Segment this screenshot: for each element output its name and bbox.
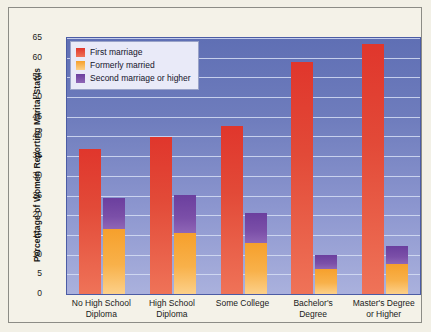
bar-marital-stack xyxy=(386,246,408,294)
bar-first-marriage xyxy=(291,62,313,294)
y-axis-tick-label: 60 xyxy=(18,53,42,62)
bar-segment-formerly-married xyxy=(103,229,125,294)
chart-figure: Percentage of Women Reporting Marital St… xyxy=(0,0,431,332)
bar-segment-second-marriage xyxy=(245,213,267,243)
bar-segment-formerly-married xyxy=(386,264,408,294)
bar-first-marriage xyxy=(79,149,101,294)
red-swatch xyxy=(76,48,85,57)
y-axis-tick-label: 45 xyxy=(18,112,42,121)
bar-segment-first-marriage xyxy=(150,137,172,294)
y-axis-tick-label: 30 xyxy=(18,171,42,180)
y-axis-tick-label: 20 xyxy=(18,210,42,219)
x-axis-tick-label: Master's Degree or Higher xyxy=(342,298,425,319)
y-axis-tick-label: 15 xyxy=(18,230,42,239)
bar-segment-first-marriage xyxy=(291,62,313,294)
bar-segment-formerly-married xyxy=(245,243,267,294)
y-axis-tick-label: 65 xyxy=(18,33,42,42)
legend-item: First marriage xyxy=(76,46,191,59)
y-axis-tick-label: 5 xyxy=(18,269,42,278)
bar-segment-formerly-married xyxy=(174,233,196,294)
figure-frame: Percentage of Women Reporting Marital St… xyxy=(8,7,422,323)
y-axis-tick-label: 0 xyxy=(18,289,42,298)
bar-marital-stack xyxy=(103,198,125,294)
y-axis-tick-label: 55 xyxy=(18,72,42,81)
bar-segment-second-marriage xyxy=(386,246,408,265)
y-axis-tick-label: 35 xyxy=(18,151,42,160)
bar-segment-first-marriage xyxy=(221,126,243,294)
legend-item-label: Formerly married xyxy=(90,61,155,70)
gridline xyxy=(67,38,420,39)
orange-swatch xyxy=(76,61,85,70)
bar-marital-stack xyxy=(245,213,267,294)
bar-segment-formerly-married xyxy=(315,269,337,294)
y-axis-tick-label: 25 xyxy=(18,191,42,200)
y-axis-title: Percentage of Women Reporting Marital St… xyxy=(32,50,42,280)
chart-legend: First marriage Formerly married Second m… xyxy=(70,41,199,90)
purple-swatch xyxy=(76,74,85,83)
legend-item-label: Second marriage or higher xyxy=(90,74,191,83)
bar-segment-second-marriage xyxy=(315,255,337,269)
bar-first-marriage xyxy=(150,137,172,294)
bar-first-marriage xyxy=(362,44,384,294)
bar-segment-first-marriage xyxy=(362,44,384,294)
plot-area: First marriage Formerly married Second m… xyxy=(66,37,421,295)
bar-segment-second-marriage xyxy=(174,195,196,232)
bar-segment-first-marriage xyxy=(79,149,101,294)
y-axis-tick-label: 50 xyxy=(18,92,42,101)
legend-item: Second marriage or higher xyxy=(76,72,191,85)
y-axis-tick-label: 40 xyxy=(18,131,42,140)
y-axis-tick-label: 10 xyxy=(18,250,42,259)
legend-item-label: First marriage xyxy=(90,48,142,57)
legend-item: Formerly married xyxy=(76,59,191,72)
bar-first-marriage xyxy=(221,126,243,294)
bar-marital-stack xyxy=(174,195,196,294)
bar-marital-stack xyxy=(315,255,337,294)
bar-segment-second-marriage xyxy=(103,198,125,229)
